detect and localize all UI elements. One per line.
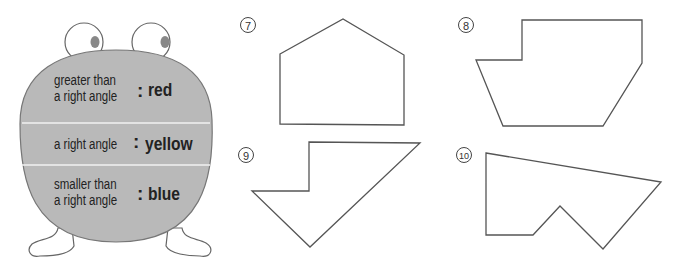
legend-row-3-color: blue [148,183,180,205]
shape-7 [280,19,404,125]
legend-row-1-line2: a right angle [54,89,117,104]
legend-row-2-colon: : [133,131,139,153]
legend-row-2-color: yellow [145,133,193,155]
legend-row-3-line2: a right angle [54,193,117,208]
legend-row-1-color: red [148,79,172,101]
left-pupil [91,36,100,48]
legend-row-3-colon: : [137,183,143,205]
legend-row-3-line1: smaller than [54,177,117,192]
shape-number-9: 9 [238,147,254,163]
shape-8 [476,20,642,126]
right-pupil [161,36,170,48]
legend-row-1-line1: greater than [54,73,116,88]
right-foot [166,228,211,256]
shape-9 [252,142,420,247]
shape-number-10: 10 [456,147,472,163]
shape-10 [486,153,661,249]
shape-number-8: 8 [458,17,474,33]
legend-row-1-colon: : [137,80,143,102]
legend-row-2-line1: a right angle [54,137,117,152]
shape-number-7: 7 [240,17,256,33]
